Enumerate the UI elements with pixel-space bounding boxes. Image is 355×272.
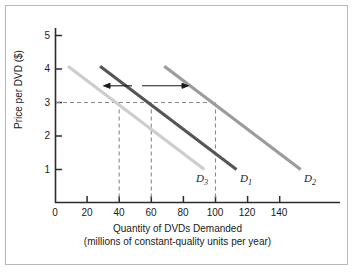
curve-label-d1: D1 (240, 172, 252, 187)
y-axis-label: Price per DVD ($) (13, 30, 24, 150)
x-axis-label: Quantity of DVDs Demanded (millions of c… (0, 222, 355, 248)
rightward-shift-arrow (142, 83, 189, 88)
curve-label-d3-sub: 3 (204, 178, 208, 187)
x-tick-label-100: 100 (205, 207, 225, 218)
y-tick-label-3: 3 (36, 97, 50, 108)
shift-arrows (104, 83, 189, 88)
x-tick-label-80: 80 (173, 207, 193, 218)
x-tick-label-0: 0 (45, 207, 65, 218)
y-tick-label-1: 1 (36, 164, 50, 175)
curve-label-d2-sub: 2 (312, 178, 316, 187)
x-tick-label-20: 20 (77, 207, 97, 218)
curve-label-d3-text: D (196, 172, 204, 184)
curve-label-d1-sub: 1 (248, 178, 252, 187)
y-tick-label-2: 2 (36, 130, 50, 141)
x-tick-label-40: 40 (109, 207, 129, 218)
y-tick-label-5: 5 (36, 30, 50, 41)
curve-label-d2: D2 (304, 172, 316, 187)
curve-label-d1-text: D (240, 172, 248, 184)
x-tick-label-140: 140 (269, 207, 289, 218)
curve-label-d3: D3 (196, 172, 208, 187)
y-tick-label-4: 4 (36, 63, 50, 74)
x-tick-label-120: 120 (237, 207, 257, 218)
x-axis-label-line1: Quantity of DVDs Demanded (113, 223, 242, 234)
x-tick-label-60: 60 (141, 207, 161, 218)
demand-curve-chart: 5 4 3 2 1 0 20 40 60 80 100 120 140 Pric… (0, 0, 355, 272)
x-axis-label-line2: (millions of constant-quality units per … (0, 235, 355, 248)
curve-label-d2-text: D (304, 172, 312, 184)
